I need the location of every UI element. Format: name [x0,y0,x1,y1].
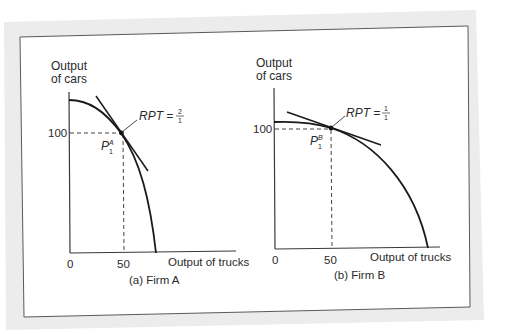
y-axis-label-line1: Output [51,59,88,73]
point-label: P [101,139,109,153]
y-axis-label-line2: of cars [256,69,292,83]
rpt-numerator: 2 [178,108,182,115]
point-label-sup: A [108,139,114,146]
rpt-label: RPT = [346,106,380,120]
y-tick-100: 100 [253,123,272,135]
x-axis-label: Output of trucks [168,256,249,268]
rpt-denominator: 1 [178,117,182,124]
panel-caption: (b) Firm B [334,269,385,281]
x-tick-50: 50 [117,258,130,270]
point-label-sup: B [318,134,323,141]
figure: Output of cars RPT = 2 1 P A 1 100 0 50 … [0,0,508,334]
x-axis-label: Output of trucks [370,251,451,263]
point-label: P [310,134,318,148]
y-axis-label-line1: Output [256,56,293,70]
x-tick-50: 50 [324,254,337,266]
origin-label: 0 [67,258,73,270]
point-label-sub: 1 [318,143,322,150]
origin-label: 0 [272,254,278,266]
ppf-comparison-diagram: Output of cars RPT = 2 1 P A 1 100 0 50 … [0,0,508,334]
point-label-sub: 1 [109,148,113,155]
panel-frame [20,26,470,317]
y-tick-100: 100 [48,127,67,139]
rpt-label: RPT = [139,109,173,123]
rpt-numerator: 1 [384,105,388,112]
y-axis-label-line2: of cars [51,72,87,86]
rpt-denominator: 1 [384,114,388,121]
panel-caption: (a) Firm A [129,274,180,286]
